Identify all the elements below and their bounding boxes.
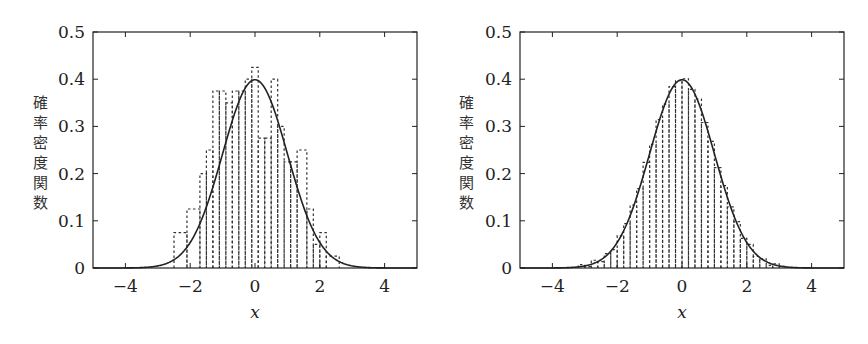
y-tick-label: 0.1	[485, 211, 512, 231]
histogram-bar	[611, 250, 617, 268]
y-axis-label-char: 度	[33, 154, 48, 172]
histogram-bar	[239, 91, 245, 268]
histogram-bar	[656, 120, 662, 268]
x-tick-label: −2	[178, 276, 203, 296]
histogram-bars	[578, 79, 785, 268]
y-tick-label: 0.4	[485, 69, 512, 89]
y-axis-label: 確率密度関数	[459, 94, 474, 212]
histogram-bar	[245, 79, 251, 268]
histogram-bar	[701, 123, 707, 268]
x-axis-label: x	[677, 302, 687, 322]
x-tick-label: 4	[806, 276, 817, 296]
histogram-bar	[206, 150, 212, 268]
histogram-bar	[219, 91, 225, 268]
y-tick-label: 0.5	[485, 22, 512, 42]
density-curve	[93, 80, 417, 268]
y-axis-label-char: 度	[459, 154, 474, 172]
y-tick-label: 0.2	[58, 164, 85, 184]
histogram-bar	[753, 257, 759, 268]
histogram-bar	[708, 141, 714, 268]
histogram-bar	[278, 126, 284, 268]
histogram-bar	[676, 81, 682, 268]
histogram-bar	[213, 91, 219, 268]
x-tick-label: −4	[540, 276, 565, 296]
plot-frame	[93, 32, 417, 268]
x-tick-label: 2	[314, 276, 325, 296]
histogram-bar	[669, 87, 675, 268]
y-tick-label: 0.1	[58, 211, 85, 231]
x-tick-label: −2	[605, 276, 630, 296]
histogram-bar	[598, 262, 604, 268]
y-axis-label-char: 率	[459, 114, 474, 132]
histogram-bars	[174, 67, 339, 268]
y-tick-label: 0	[74, 258, 85, 278]
histogram-bar	[740, 238, 746, 268]
x-tick-label: 4	[379, 276, 390, 296]
y-axis-label-char: 関	[459, 174, 474, 192]
chart-panel-2: −4−202400.10.20.30.40.5x確率密度関数	[459, 22, 845, 322]
y-axis-label-char: 確	[459, 94, 474, 112]
histogram-bar	[688, 89, 694, 268]
y-axis-label-char: 密	[459, 134, 474, 152]
histogram-bar	[637, 189, 643, 268]
histogram-bar	[721, 186, 727, 268]
histogram-bar	[650, 144, 656, 268]
y-axis-label-char: 数	[33, 194, 48, 212]
y-axis-label-char: 密	[33, 134, 48, 152]
histogram-bar	[695, 99, 701, 268]
histogram-bar	[252, 67, 258, 268]
y-tick-label: 0	[501, 258, 512, 278]
chart-panel-1: −4−202400.10.20.30.40.5x確率密度関数	[33, 22, 418, 322]
histogram-bar	[682, 79, 688, 268]
histogram-bar	[226, 103, 232, 268]
histogram-bar	[727, 207, 733, 268]
x-tick-label: 0	[250, 276, 261, 296]
x-axis-label: x	[250, 302, 260, 322]
y-tick-label: 0.4	[58, 69, 85, 89]
histogram-bar	[258, 138, 264, 268]
y-axis-label-char: 関	[33, 174, 48, 192]
histogram-bar	[265, 138, 271, 268]
y-axis-label-char: 確	[33, 94, 48, 112]
y-axis-label: 確率密度関数	[33, 94, 48, 212]
histogram-bar	[297, 150, 307, 268]
histogram-bar	[284, 162, 290, 268]
y-axis-label-char: 率	[33, 114, 48, 132]
y-tick-label: 0.5	[58, 22, 85, 42]
y-tick-label: 0.2	[485, 164, 512, 184]
histogram-figure: −4−202400.10.20.30.40.5x確率密度関数−4−202400.…	[0, 0, 868, 344]
x-tick-label: 2	[741, 276, 752, 296]
histogram-bar	[313, 244, 319, 268]
x-tick-label: 0	[677, 276, 688, 296]
histogram-bar	[643, 162, 649, 268]
y-axis-label-char: 数	[459, 194, 474, 212]
x-tick-label: −4	[113, 276, 138, 296]
histogram-bar	[271, 79, 277, 268]
histogram-bar	[714, 168, 720, 268]
y-tick-label: 0.3	[485, 116, 512, 136]
histogram-bar	[663, 104, 669, 268]
y-tick-label: 0.3	[58, 116, 85, 136]
